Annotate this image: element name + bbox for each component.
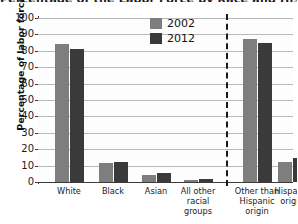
x-axis-label-line: origin (231, 206, 283, 216)
y-axis-tick-label: 0 (4, 177, 34, 187)
y-axis-tick-label: 80 (4, 46, 34, 56)
bar (142, 175, 156, 182)
bar (114, 162, 128, 183)
bar (70, 49, 84, 182)
bar (293, 158, 298, 182)
bar-chart: Percentage of the Labor Force by Race an… (0, 0, 297, 224)
bar (55, 44, 69, 182)
bar (243, 39, 257, 183)
legend-label-2002: 2002 (167, 17, 195, 30)
legend: 2002 2012 (150, 16, 212, 46)
x-axis-label: All otherracialgroups (172, 186, 224, 216)
legend-swatch-2012-icon (150, 33, 162, 44)
x-axis-label: Hispanicorigin (266, 186, 297, 206)
x-axis-label-line: origin (266, 196, 297, 206)
bar (157, 173, 171, 182)
legend-item-2012: 2012 (150, 31, 212, 46)
legend-item-2002: 2002 (150, 16, 212, 31)
y-axis-tick-label: 10 (4, 161, 34, 171)
bar (278, 162, 292, 183)
y-axis-tick-label: 70 (4, 62, 34, 72)
y-axis-tick-label: 60 (4, 79, 34, 89)
x-axis-label-line: groups (172, 206, 224, 216)
bar (99, 163, 113, 182)
y-axis-tick-label: 100 (4, 13, 34, 23)
bar (184, 180, 198, 182)
x-axis-label-line: All other (172, 186, 224, 196)
y-axis-tick-label: 50 (4, 95, 34, 105)
x-axis-label-line: Hispanic (266, 186, 297, 196)
legend-label-2012: 2012 (167, 32, 195, 45)
x-axis-line (38, 182, 293, 183)
x-axis-label-line: racial (172, 196, 224, 206)
bar (258, 43, 272, 182)
bar (199, 179, 213, 182)
legend-swatch-2002-icon (150, 18, 162, 29)
y-axis-tick-label: 90 (4, 29, 34, 39)
vertical-dashed-divider-icon (226, 14, 228, 186)
y-axis-tick-label: 30 (4, 128, 34, 138)
y-axis-tick-label: 40 (4, 111, 34, 121)
y-axis-tick-label: 20 (4, 144, 34, 154)
